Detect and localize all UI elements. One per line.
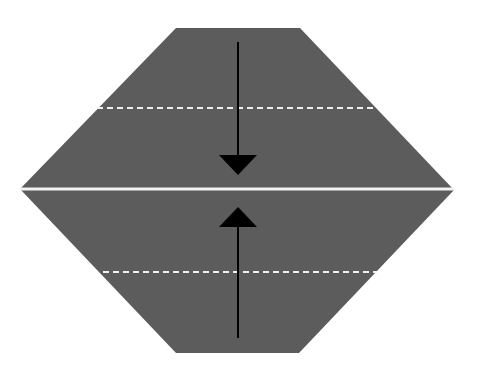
origami-diagram <box>0 0 480 368</box>
diagram-canvas <box>0 0 480 368</box>
